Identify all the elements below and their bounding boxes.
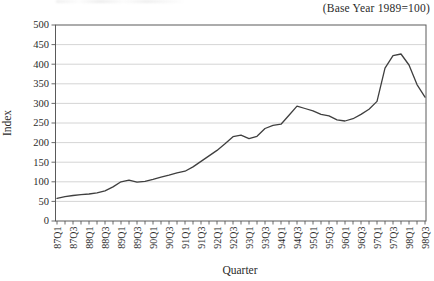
label-layer: 05010015020025030035040045050087Q187Q388… [1, 19, 431, 276]
x-tick-label: 90Q1 [148, 227, 159, 249]
x-tick-label: 91Q3 [196, 227, 207, 249]
x-axis-title: Quarter [222, 264, 257, 276]
x-tick-label: 90Q3 [164, 227, 175, 249]
x-tick-label: 89Q1 [116, 227, 127, 249]
x-tick-label: 91Q1 [180, 227, 191, 249]
y-tick-label: 400 [33, 59, 49, 70]
x-tick-label: 89Q3 [132, 227, 143, 249]
y-tick-label: 450 [33, 39, 49, 50]
series-layer [57, 54, 425, 198]
x-tick-label: 87Q1 [52, 227, 63, 249]
x-tick-label: 97Q1 [372, 227, 383, 249]
x-tick-label: 93Q1 [244, 227, 255, 249]
chart-page: (Base Year 1989=100) 0501001502002503003… [0, 0, 434, 281]
x-tick-label: 95Q3 [324, 227, 335, 249]
x-tick-label: 96Q3 [356, 227, 367, 249]
y-tick-label: 250 [33, 117, 49, 128]
x-tick-label: 88Q3 [100, 227, 111, 249]
y-axis-title: Index [1, 110, 13, 136]
y-tick-label: 500 [33, 19, 49, 30]
y-tick-label: 50 [39, 196, 50, 207]
y-tick-label: 0 [44, 215, 49, 226]
x-tick-label: 87Q3 [68, 227, 79, 249]
x-tick-label: 92Q1 [212, 227, 223, 249]
x-tick-label: 97Q3 [388, 227, 399, 249]
x-tick-label: 94Q3 [292, 227, 303, 249]
x-tick-label: 98Q1 [404, 227, 415, 249]
index-line [57, 54, 425, 198]
y-tick-label: 200 [33, 137, 49, 148]
x-tick-label: 88Q1 [84, 227, 95, 249]
y-tick-label: 150 [33, 157, 49, 168]
x-tick-label: 96Q1 [340, 227, 351, 249]
x-tick-label: 93Q3 [260, 227, 271, 249]
x-tick-label: 95Q1 [308, 227, 319, 249]
x-tick-label: 92Q3 [228, 227, 239, 249]
y-tick-label: 300 [33, 98, 49, 109]
grid-layer [56, 45, 427, 202]
y-tick-label: 100 [33, 176, 49, 187]
y-tick-label: 350 [33, 78, 49, 89]
index-chart-svg: 05010015020025030035040045050087Q187Q388… [0, 0, 434, 281]
axis-layer [52, 25, 427, 225]
x-tick-label: 94Q1 [276, 227, 287, 249]
x-tick-label: 98Q3 [420, 227, 431, 249]
